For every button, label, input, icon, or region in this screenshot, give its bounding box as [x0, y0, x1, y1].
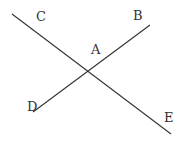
label-b: B	[133, 8, 143, 23]
diagram-canvas: C B A D E	[0, 0, 183, 142]
label-c: C	[36, 9, 46, 24]
line-ce	[12, 14, 171, 134]
diagram-svg: C B A D E	[0, 0, 183, 142]
line-db	[33, 25, 150, 112]
label-e: E	[164, 110, 174, 125]
label-a: A	[90, 42, 101, 57]
label-d: D	[27, 99, 37, 114]
